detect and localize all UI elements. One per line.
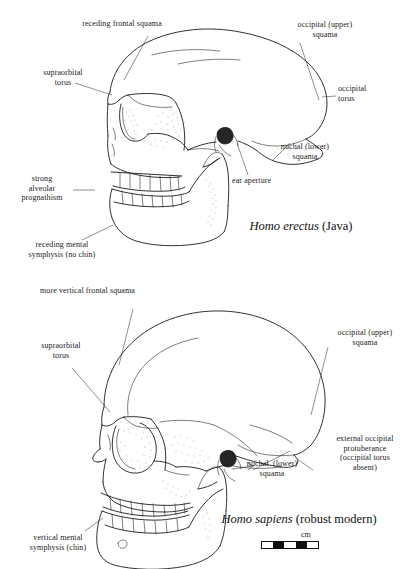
figure-root: receding frontal squama supraorbital tor… bbox=[0, 0, 415, 569]
leader-receding-mental-symphysis bbox=[82, 225, 113, 240]
leader-vertical-mental-symphysis bbox=[85, 518, 103, 531]
scale-unit-label: cm bbox=[301, 530, 311, 539]
label-more-vertical-frontal-squama: more vertical frontal squama bbox=[25, 286, 150, 296]
scale-bar bbox=[261, 541, 319, 549]
stipple-mandibular-ramus bbox=[206, 180, 217, 226]
stipple-orbit bbox=[125, 110, 138, 135]
leader-ear-aperture bbox=[237, 143, 248, 175]
caption-common-name: (robust modern) bbox=[293, 512, 377, 526]
stipple-orbit bbox=[120, 428, 152, 469]
scale-segment-2 bbox=[273, 542, 284, 548]
caption-homo-erectus: Homo erectus (Java) bbox=[237, 204, 352, 249]
leader-more-vertical-frontal-squama bbox=[119, 309, 133, 365]
caption-homo-sapiens: Homo sapiens (robust modern) bbox=[209, 497, 377, 542]
label-vertical-mental-symphysis: vertical mental symphysis (chin) bbox=[8, 533, 108, 552]
leader-supraorbital-torus bbox=[72, 368, 110, 412]
label-external-occipital-protuberance: external occipital protuberance (occipit… bbox=[318, 434, 412, 472]
scale-segment-4 bbox=[296, 542, 307, 548]
label-receding-mental-symphysis: receding mental symphysis (no chin) bbox=[7, 240, 117, 259]
label-receding-frontal-squama: receding frontal squama bbox=[62, 19, 182, 29]
label-occipital-upper-squama: occipital (upper) squama bbox=[280, 20, 370, 39]
scale-segment-3 bbox=[284, 542, 295, 548]
label-supraorbital-torus: supraorbital torus bbox=[20, 341, 102, 360]
caption-species-name: Homo sapiens bbox=[222, 512, 293, 526]
stipple-temporal-fossa bbox=[172, 435, 209, 464]
label-ear-aperture: ear aperture bbox=[232, 176, 312, 186]
caption-common-name: (Java) bbox=[319, 219, 353, 233]
label-occipital-upper-squama: occipital (upper) squama bbox=[320, 328, 410, 347]
label-nuchal-lower-squama: nuchal (lower) squama bbox=[228, 459, 316, 478]
scale-segment-1 bbox=[262, 542, 273, 548]
label-strong-alveolar-prognathism: strong alveolar prognathism bbox=[10, 174, 74, 203]
leader-receding-frontal-squama bbox=[124, 36, 148, 80]
scale-segment-5 bbox=[307, 542, 318, 548]
leader-occipital-torus bbox=[322, 96, 336, 97]
label-supraorbital-torus: supraorbital torus bbox=[22, 68, 104, 87]
label-occipital-torus: occipital torus bbox=[338, 84, 408, 103]
label-nuchal-lower-squama: nuchal (lower) squama bbox=[260, 142, 350, 161]
caption-species-name: Homo erectus bbox=[250, 219, 319, 233]
stipple-temporal-fossa bbox=[145, 108, 185, 148]
